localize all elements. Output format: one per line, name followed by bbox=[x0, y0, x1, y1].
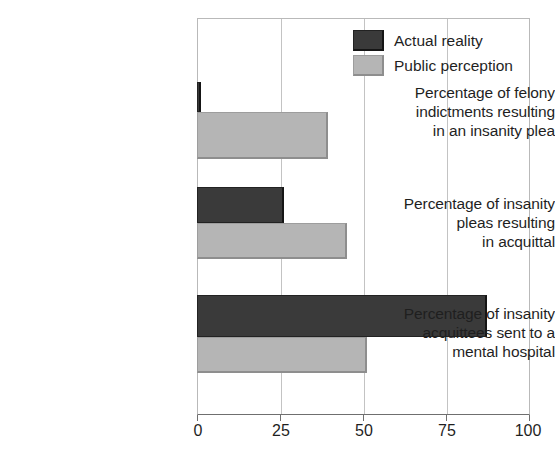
tick-label-25: 25 bbox=[272, 421, 290, 441]
category-label-3: Percentage of insanity acquittees sent t… bbox=[365, 304, 555, 361]
tick-label-50: 50 bbox=[355, 421, 373, 441]
tick-label-75: 75 bbox=[438, 421, 456, 441]
bar-public-perception-3[interactable] bbox=[197, 337, 367, 373]
category-label-2-line-3: in acquittal bbox=[365, 232, 555, 251]
category-label-3-line-1: Percentage of insanity bbox=[365, 304, 555, 323]
legend-swatch-public-perception bbox=[353, 55, 384, 76]
legend-swatch-actual-reality bbox=[353, 30, 384, 51]
category-label-2: Percentage of insanity pleas resulting i… bbox=[365, 194, 555, 251]
tick-label-100: 100 bbox=[515, 421, 542, 441]
category-label-3-line-3: mental hospital bbox=[365, 342, 555, 361]
category-label-1-line-3: in an insanity plea bbox=[365, 121, 555, 140]
legend-label-actual-reality: Actual reality bbox=[394, 31, 483, 50]
bar-actual-reality-2[interactable] bbox=[197, 187, 284, 223]
category-label-3-line-2: acquittees sent to a bbox=[365, 323, 555, 342]
category-label-2-line-1: Percentage of insanity bbox=[365, 194, 555, 213]
category-label-1-line-1: Percentage of felony bbox=[365, 83, 555, 102]
bar-chart: Percentage of felony indictments resulti… bbox=[0, 0, 555, 450]
legend-item-actual-reality[interactable]: Actual reality bbox=[353, 28, 528, 53]
tick-label-0: 0 bbox=[194, 421, 203, 441]
bar-public-perception-2[interactable] bbox=[197, 223, 347, 259]
category-label-2-line-2: pleas resulting bbox=[365, 213, 555, 232]
legend-item-public-perception[interactable]: Public perception bbox=[353, 53, 528, 78]
category-label-1: Percentage of felony indictments resulti… bbox=[365, 83, 555, 140]
chart-legend: Actual reality Public perception bbox=[353, 28, 528, 78]
bar-public-perception-1[interactable] bbox=[197, 112, 328, 159]
legend-label-public-perception: Public perception bbox=[394, 56, 513, 75]
category-label-1-line-2: indictments resulting bbox=[365, 102, 555, 121]
bar-actual-reality-1[interactable] bbox=[197, 82, 201, 112]
